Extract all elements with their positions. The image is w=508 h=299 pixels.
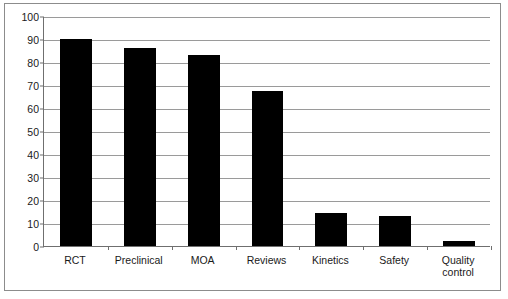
y-axis-tick-label: 50	[27, 127, 39, 138]
x-axis-label-line: Quality	[426, 254, 490, 266]
bar	[252, 91, 284, 246]
x-axis-category-label: MOA	[171, 254, 235, 266]
x-axis-tick-mark	[172, 246, 173, 250]
bar	[315, 213, 347, 246]
x-axis-label-line: Safety	[362, 254, 426, 266]
y-axis-tick-label: 80	[27, 58, 39, 69]
y-axis-tick-label: 0	[33, 242, 39, 253]
x-axis-label-line: MOA	[171, 254, 235, 266]
y-axis-tick-label: 40	[27, 150, 39, 161]
bar-slot	[108, 17, 172, 246]
bar-chart: 359 studies with S. boulardii 0102030405…	[0, 0, 508, 299]
x-axis-category-label: Qualitycontrol	[426, 254, 490, 278]
bars-layer	[44, 17, 490, 246]
y-axis-tick-label: 30	[27, 173, 39, 184]
x-axis-label-line: Reviews	[235, 254, 299, 266]
x-axis-label-line: RCT	[43, 254, 107, 266]
y-axis-tick-label: 10	[27, 219, 39, 230]
x-axis-category-label: Reviews	[235, 254, 299, 266]
y-axis-tick-mark	[40, 247, 44, 248]
x-axis-tick-mark	[299, 246, 300, 250]
y-axis-tick-label: 90	[27, 35, 39, 46]
x-axis-category-label: Kinetics	[298, 254, 362, 266]
plot-area: 0102030405060708090100	[43, 17, 490, 247]
x-axis-label-line: Kinetics	[298, 254, 362, 266]
bar	[379, 216, 411, 246]
bar-slot	[427, 17, 491, 246]
y-axis-tick-label: 60	[27, 104, 39, 115]
x-axis-tick-mark	[108, 246, 109, 250]
bar	[188, 55, 220, 246]
bar-slot	[236, 17, 300, 246]
bar-slot	[44, 17, 108, 246]
x-axis-tick-mark	[363, 246, 364, 250]
x-axis-category-label: Preclinical	[107, 254, 171, 266]
x-axis-tick-mark	[491, 246, 492, 250]
x-axis-label-line: control	[426, 266, 490, 278]
x-axis-tick-mark	[427, 246, 428, 250]
bar	[60, 39, 92, 246]
y-axis-tick-label: 100	[21, 12, 39, 23]
x-axis-category-label: RCT	[43, 254, 107, 266]
bar-slot	[172, 17, 236, 246]
bar-slot	[299, 17, 363, 246]
x-axis-tick-mark	[236, 246, 237, 250]
x-axis-category-label: Safety	[362, 254, 426, 266]
bar-slot	[363, 17, 427, 246]
y-axis-tick-label: 20	[27, 196, 39, 207]
x-axis-label-line: Preclinical	[107, 254, 171, 266]
bar	[443, 241, 475, 246]
bar	[124, 48, 156, 246]
y-axis-tick-label: 70	[27, 81, 39, 92]
